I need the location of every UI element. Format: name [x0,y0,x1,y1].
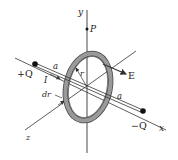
plus-charge [32,61,38,67]
minus-charge-label: −Q [131,120,147,131]
ring [59,49,116,125]
point-p [86,28,89,31]
dipole-ring-diagram: y P +Q a I dr r E a −Q x z [0,0,178,160]
current-label: I [43,75,48,85]
ring-width-label: dr [42,90,52,99]
dr-indicator [55,95,62,98]
field-label: E [128,70,135,81]
plus-charge-label: +Q [17,68,33,79]
y-axis-label: y [77,7,84,17]
half-sep-left-label: a [53,61,58,71]
ring-radius-label: r [80,69,85,78]
point-p-label: P [89,24,97,34]
half-sep-right-label: a [117,91,122,101]
minus-charge [140,108,146,114]
x-axis-label: x [159,123,164,133]
dipole-rod [35,63,143,113]
z-axis-label: z [25,133,31,142]
